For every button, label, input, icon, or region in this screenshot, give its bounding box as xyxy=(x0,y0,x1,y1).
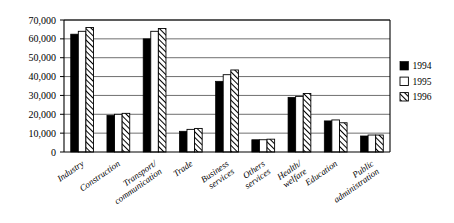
bar xyxy=(332,120,340,152)
category-label: Othersservices xyxy=(237,158,272,191)
bar xyxy=(151,31,159,152)
category-label-line: Industry xyxy=(55,158,86,184)
legend-swatch xyxy=(400,62,408,70)
bar xyxy=(216,81,224,152)
y-axis-tick-label: 50,000 xyxy=(29,52,57,63)
legend-label: 1995 xyxy=(413,77,432,87)
bar xyxy=(339,123,347,152)
bar xyxy=(122,113,130,152)
bar xyxy=(259,140,267,152)
bar xyxy=(231,70,239,152)
y-axis-tick-label: 0 xyxy=(51,147,56,158)
bar xyxy=(195,128,203,152)
bar xyxy=(252,140,260,152)
chart-canvas: 010,00020,00030,00040,00050,00060,00070,… xyxy=(0,0,454,223)
legend-label: 1994 xyxy=(413,61,432,71)
bar xyxy=(107,115,115,152)
bar xyxy=(86,28,94,152)
y-axis-tick-label: 20,000 xyxy=(29,109,57,120)
category-label: Construction xyxy=(78,158,123,193)
bar xyxy=(360,136,368,152)
bar xyxy=(187,129,195,152)
bar xyxy=(143,39,151,152)
bar xyxy=(267,139,275,152)
y-axis-ticks xyxy=(60,20,64,152)
bar xyxy=(179,131,187,152)
bar xyxy=(158,28,166,152)
bar-chart-figure: 010,00020,00030,00040,00050,00060,00070,… xyxy=(0,0,454,223)
y-axis-tick-label: 70,000 xyxy=(29,15,57,26)
chart-legend: 199419951996 xyxy=(400,61,432,102)
category-labels: IndustryConstructionTransport/communicat… xyxy=(55,157,382,206)
y-axis-labels: 010,00020,00030,00040,00050,00060,00070,… xyxy=(29,15,57,158)
category-label: Industry xyxy=(55,158,86,184)
bar xyxy=(288,97,296,152)
y-axis-tick-label: 10,000 xyxy=(29,128,57,139)
bar xyxy=(376,135,384,152)
y-axis-tick-label: 40,000 xyxy=(29,71,57,82)
legend-label: 1996 xyxy=(413,92,432,102)
category-label-line: Construction xyxy=(78,158,123,193)
bar xyxy=(223,75,231,152)
bar-series-group xyxy=(71,28,384,152)
category-label-line: Education xyxy=(302,158,339,188)
bar xyxy=(303,94,311,152)
category-label: Businessservices xyxy=(199,158,236,192)
category-label: Trade xyxy=(171,158,194,178)
y-axis-tick-label: 30,000 xyxy=(29,90,57,101)
category-label: Health/welfare xyxy=(274,157,309,190)
bar xyxy=(296,96,304,152)
bar xyxy=(115,114,123,152)
bar xyxy=(368,135,376,152)
category-label-line: Trade xyxy=(171,158,194,178)
y-axis-tick-label: 60,000 xyxy=(29,33,57,44)
bar xyxy=(78,31,86,152)
bar xyxy=(71,34,79,152)
legend-swatch xyxy=(400,93,408,101)
bar xyxy=(324,121,332,152)
legend-swatch xyxy=(400,77,408,85)
category-label: Education xyxy=(302,158,339,188)
